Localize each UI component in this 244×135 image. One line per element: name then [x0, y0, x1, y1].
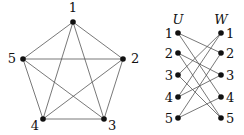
vertex-U5 [175, 115, 181, 121]
vertex-label-U3: 3 [165, 68, 173, 83]
edge-U3-W5 [178, 75, 221, 118]
vertex-5 [20, 56, 26, 62]
vertex-U4 [175, 94, 181, 100]
vertex-label-4: 4 [31, 118, 39, 133]
vertex-label-5: 5 [8, 51, 16, 66]
vertex-label-3: 3 [108, 118, 116, 133]
vertex-label-W2: 2 [226, 46, 234, 61]
vertex-3 [101, 116, 107, 122]
vertex-label-U5: 5 [165, 111, 173, 126]
vertex-label-W3: 3 [226, 68, 234, 83]
edge-1-3 [73, 22, 104, 119]
edge-U3-W1 [178, 33, 221, 75]
edge-3-5 [23, 59, 104, 119]
vertex-label-1: 1 [69, 0, 77, 15]
vertex-2 [120, 56, 126, 62]
bipartite-labels: 1234512345 [165, 26, 235, 126]
vertex-label-2: 2 [131, 51, 139, 66]
edge-2-3 [104, 59, 123, 119]
vertex-4 [40, 116, 46, 122]
vertex-U2 [175, 50, 181, 56]
edge-U5-W4 [178, 97, 221, 118]
vertex-label-U1: 1 [165, 26, 173, 41]
vertex-W5 [218, 115, 224, 121]
vertex-label-W4: 4 [226, 90, 234, 105]
edge-U2-W3 [178, 53, 221, 75]
edge-1-2 [73, 22, 123, 59]
edge-1-4 [43, 22, 73, 119]
bipartite-graph: U W 1234512345 [165, 12, 235, 126]
vertex-label-U4: 4 [165, 90, 173, 105]
edge-2-4 [43, 59, 123, 119]
edge-1-5 [23, 22, 73, 59]
vertex-1 [70, 19, 76, 25]
vertex-U1 [175, 30, 181, 36]
vertex-W3 [218, 72, 224, 78]
set-label-u: U [173, 12, 185, 27]
vertex-W1 [218, 30, 224, 36]
graph-diagram: 12345 U W 1234512345 [0, 0, 244, 135]
edge-4-5 [23, 59, 43, 119]
vertex-label-U2: 2 [165, 46, 173, 61]
vertex-label-W5: 5 [226, 111, 234, 126]
k5-edges [23, 22, 123, 119]
bipartite-edges [178, 33, 221, 118]
k5-nodes [20, 19, 126, 122]
vertex-label-W1: 1 [226, 26, 234, 41]
vertex-W4 [218, 94, 224, 100]
vertex-U3 [175, 72, 181, 78]
complete-graph-k5: 12345 [8, 0, 140, 133]
vertex-W2 [218, 50, 224, 56]
